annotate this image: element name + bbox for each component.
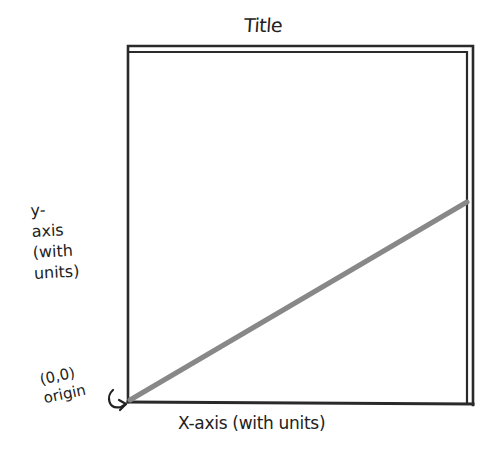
plot-area <box>0 0 499 462</box>
data-line <box>130 202 467 400</box>
plot-frame <box>128 46 473 405</box>
origin-arrow-icon <box>109 390 126 410</box>
